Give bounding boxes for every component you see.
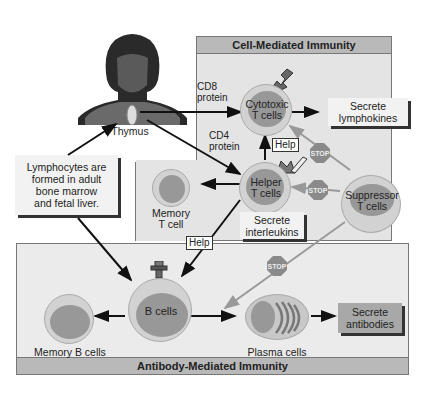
antibodies-box: Secreteantibodies [338, 303, 402, 333]
memory-t-cell [152, 169, 190, 207]
lymphocytes-origin-box: Lymphocytes are formed in adult bone mar… [15, 155, 118, 215]
lymphocytes-line-3: bone marrow [36, 185, 97, 197]
help-label-cytotoxic: Help [272, 138, 299, 152]
cytotoxic-t-cell: CytotoxicT cells [240, 84, 292, 136]
person-illustration [75, 30, 190, 125]
thymus-label: Thymus [110, 126, 150, 137]
cd8-label: CD8protein [197, 81, 228, 103]
helper-label: HelperT cells [236, 177, 296, 199]
stop-sign-cytotoxic-icon: STOP [310, 143, 330, 163]
b-cells-label: B cells [129, 306, 193, 317]
plasma-cell [245, 294, 309, 340]
panel-joint [136, 160, 198, 164]
memory-b-cell [44, 294, 94, 344]
antibody-mediated-title: Antibody-Mediated Immunity [17, 357, 408, 374]
help-label-bcell: Help [186, 236, 213, 250]
cd4-label: CD4protein [209, 130, 240, 152]
lymphocytes-line-2: formed in adult [32, 173, 101, 185]
interleukins-box: Secreteinterleukins [240, 212, 304, 239]
cytotoxic-label: CytotoxicT cells [237, 99, 297, 121]
lymphokines-box: Secretelymphokines [328, 98, 408, 126]
b-cell: B cells [128, 278, 192, 342]
memory-t-label: MemoryT cell [143, 208, 199, 230]
b-cell-receptor-icon [150, 261, 168, 279]
stop-sign-bcell-icon: STOP [267, 256, 287, 276]
lymphocytes-line-4: and fetal liver. [34, 197, 99, 209]
stop-sign-helper-icon: STOP [308, 180, 328, 200]
lymphocytes-line-1: Lymphocytes are [27, 161, 107, 173]
cell-mediated-title: Cell-Mediated Immunity [197, 37, 391, 54]
memory-b-label: Memory B cells [25, 347, 115, 358]
suppressor-t-cell: SuppressorT cells [341, 175, 401, 233]
plasma-label: Plasma cells [232, 347, 322, 358]
helper-t-cell: HelperT cells [239, 162, 291, 214]
thymus-icon [127, 105, 137, 125]
suppressor-label: SuppressorT cells [334, 190, 410, 212]
